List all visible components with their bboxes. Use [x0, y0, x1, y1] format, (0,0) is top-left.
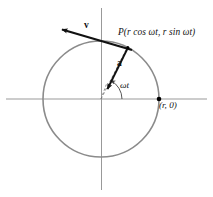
angle-label: ωt — [120, 81, 129, 90]
point-p-label: P(r cos ωt, r sin ωt) — [118, 28, 195, 37]
acceleration-label: a — [117, 59, 122, 69]
point-p-label-text: P(r cos ωt, r sin ωt) — [118, 27, 195, 37]
point-p-marker — [126, 46, 129, 49]
velocity-label: v — [84, 21, 89, 31]
axis-point-label: (r, 0) — [159, 101, 177, 110]
figure-root: P(r cos ωt, r sin ωt) v a ωt (r, 0) — [0, 0, 213, 197]
